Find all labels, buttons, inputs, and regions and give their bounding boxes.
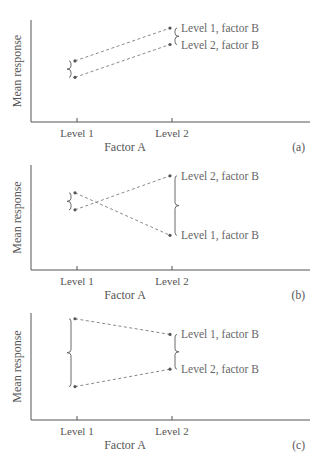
series-line bbox=[75, 176, 170, 210]
series-label: Level 1, factor B bbox=[181, 22, 259, 35]
x-tick-label: Level 1 bbox=[60, 425, 93, 437]
interaction-plots-figure: Level 1Level 2Factor AMean response(a)Le… bbox=[0, 0, 322, 475]
y-axis-label: Mean response bbox=[10, 35, 24, 107]
level1-brace bbox=[67, 61, 71, 77]
series-line bbox=[75, 193, 170, 236]
y-axis-label: Mean response bbox=[10, 330, 24, 402]
series-label: Level 2, factor B bbox=[181, 39, 259, 52]
level2-brace bbox=[175, 176, 179, 236]
y-axis-label: Mean response bbox=[10, 181, 24, 253]
data-point bbox=[73, 191, 76, 194]
series-line bbox=[75, 319, 170, 335]
data-point bbox=[73, 76, 76, 79]
data-point bbox=[73, 317, 76, 320]
x-axis-label: Factor A bbox=[104, 438, 146, 452]
level1-brace bbox=[67, 193, 71, 210]
series-label: Level 2, factor B bbox=[181, 363, 259, 376]
panel-label: (a) bbox=[292, 141, 305, 154]
series-label: Level 2, factor B bbox=[181, 170, 259, 183]
data-point bbox=[73, 208, 76, 211]
x-tick-label: Level 2 bbox=[155, 275, 188, 287]
series-label: Level 1, factor B bbox=[181, 229, 259, 242]
panel-label: (c) bbox=[292, 439, 305, 452]
series-line bbox=[75, 28, 170, 61]
x-axis-label: Factor A bbox=[104, 140, 146, 154]
x-tick-label: Level 2 bbox=[155, 425, 188, 437]
panel-label: (b) bbox=[292, 289, 306, 302]
data-point bbox=[168, 174, 171, 177]
level1-brace bbox=[67, 319, 71, 387]
x-tick-label: Level 1 bbox=[60, 127, 93, 139]
level2-brace bbox=[175, 28, 179, 44]
level2-brace bbox=[175, 334, 179, 369]
data-point bbox=[73, 59, 76, 62]
interaction-plot-a: Level 1Level 2Factor AMean response(a)Le… bbox=[10, 20, 310, 154]
x-axis-label: Factor A bbox=[104, 288, 146, 302]
series-line bbox=[75, 369, 170, 386]
series-label: Level 1, factor B bbox=[181, 328, 259, 341]
series-line bbox=[75, 45, 170, 78]
interaction-plot-b: Level 1Level 2Factor AMean response(b)Le… bbox=[10, 165, 310, 302]
data-point bbox=[168, 368, 171, 371]
x-tick-label: Level 2 bbox=[155, 127, 188, 139]
data-point bbox=[168, 234, 171, 237]
data-point bbox=[168, 27, 171, 30]
data-point bbox=[73, 385, 76, 388]
interaction-plot-c: Level 1Level 2Factor AMean response(c)Le… bbox=[10, 313, 310, 452]
data-point bbox=[168, 43, 171, 46]
x-tick-label: Level 1 bbox=[60, 275, 93, 287]
data-point bbox=[168, 333, 171, 336]
